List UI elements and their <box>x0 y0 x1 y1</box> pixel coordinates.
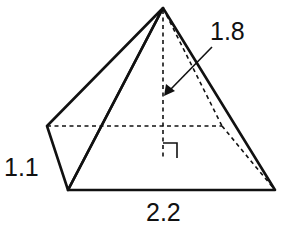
pyramid-svg: 1.8 1.1 2.2 <box>0 0 285 231</box>
height-label: 1.8 <box>210 17 245 45</box>
left-face <box>47 8 163 190</box>
hidden-right-base-edge <box>222 126 275 190</box>
length-label: 2.2 <box>146 198 181 226</box>
pyramid-diagram: 1.8 1.1 2.2 <box>0 0 285 231</box>
width-label: 1.1 <box>4 153 39 181</box>
right-angle-marker <box>163 143 177 158</box>
